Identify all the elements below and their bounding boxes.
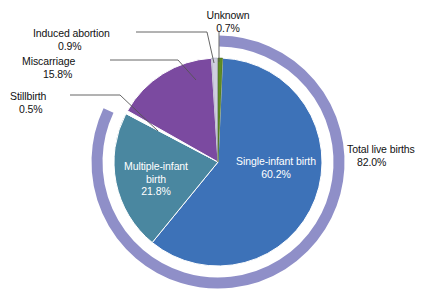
callout-total-live-births-value: 82.0% (357, 156, 415, 169)
callout-miscarriage-value: 15.8% (43, 68, 75, 81)
slice-label-single-infant-birth-name: Single-infant birth (222, 155, 330, 168)
callout-stillbirth-label: Stillbirth (10, 90, 46, 103)
slice-label-multiple-infant-birth-name1: Multiple-infant (108, 160, 204, 173)
callout-miscarriage: Miscarriage 15.8% (22, 55, 75, 80)
slice-label-single-infant-birth: Single-infant birth 60.2% (222, 155, 330, 180)
slice-label-multiple-infant-birth-value: 21.8% (108, 185, 204, 198)
slice-label-single-infant-birth-value: 60.2% (222, 168, 330, 181)
pie-chart-figure: Induced abortion 0.9% Miscarriage 15.8% … (0, 0, 430, 301)
callout-induced-abortion: Induced abortion 0.9% (33, 27, 110, 52)
callout-unknown: Unknown 0.7% (193, 9, 263, 34)
callout-miscarriage-label: Miscarriage (22, 55, 75, 68)
leader-line-induced-abortion (136, 32, 214, 63)
callout-unknown-label: Unknown (193, 9, 263, 22)
callout-unknown-value: 0.7% (193, 22, 263, 35)
callout-stillbirth-value: 0.5% (19, 103, 46, 116)
callout-induced-abortion-label: Induced abortion (33, 27, 110, 40)
slice-label-multiple-infant-birth: Multiple-infant birth 21.8% (108, 160, 204, 198)
callout-total-live-births-label: Total live births (347, 143, 415, 156)
callout-induced-abortion-value: 0.9% (58, 40, 110, 53)
callout-total-live-births: Total live births 82.0% (347, 143, 415, 168)
slice-label-multiple-infant-birth-name2: birth (108, 173, 204, 186)
callout-stillbirth: Stillbirth 0.5% (10, 90, 46, 115)
